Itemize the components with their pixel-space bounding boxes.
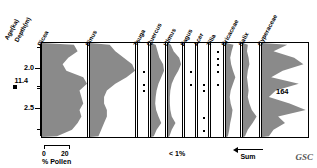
taxon-panel-ericaceae <box>225 43 241 137</box>
presence-dot <box>217 71 219 73</box>
presence-dot <box>217 84 219 86</box>
presence-dot <box>203 90 205 92</box>
sum-arrow-icon <box>233 146 263 153</box>
presence-dot <box>217 51 219 53</box>
depth-tick-label: 2.0 <box>6 64 34 71</box>
taxon-panel-salix <box>242 43 260 137</box>
axis-titles: Age(ka) Depth(m) <box>2 2 42 40</box>
presence-dot <box>143 90 145 92</box>
presence-dot <box>143 71 145 73</box>
presence-dot <box>190 84 192 86</box>
taxon-panel-tsuga <box>137 43 149 137</box>
scale-min-label: 0 <box>42 150 46 157</box>
taxon-panel-pinus <box>89 43 136 137</box>
age-marker-square <box>13 85 17 89</box>
sum-label: Sum <box>233 153 263 160</box>
taxon-panel-quercus <box>150 43 166 137</box>
taxon-panel-tilia <box>210 43 224 137</box>
presence-dot <box>203 130 205 132</box>
taxon-panel-fagus <box>184 43 196 137</box>
pollen-count-label: 164 <box>276 87 289 96</box>
scale-caption: % Pollen <box>42 158 71 165</box>
depth-tick-label: 2.5 <box>6 104 34 111</box>
presence-dot <box>217 58 219 60</box>
age-label: 11.4 <box>0 77 28 84</box>
sum-annotation: Sum <box>233 146 263 160</box>
gsc-credit: GSC <box>295 152 313 162</box>
presence-dot <box>203 117 205 119</box>
less-than-one-percent-note: < 1% <box>169 150 185 157</box>
percent-scale-bar <box>44 145 70 149</box>
scale-max-label: 20 <box>61 150 69 157</box>
presence-dot <box>203 84 205 86</box>
presence-dot <box>190 71 192 73</box>
presence-dot <box>217 64 219 66</box>
pollen-diagram: Age(ka) Depth(m) 2.02.511.4 PiceaPinusTs… <box>0 0 317 168</box>
taxon-panel-acer <box>197 43 209 137</box>
taxon-panel-picea <box>41 43 88 137</box>
presence-dot <box>143 84 145 86</box>
frame-bottom-rule <box>41 137 309 138</box>
taxon-panel-ulmus <box>167 43 183 137</box>
